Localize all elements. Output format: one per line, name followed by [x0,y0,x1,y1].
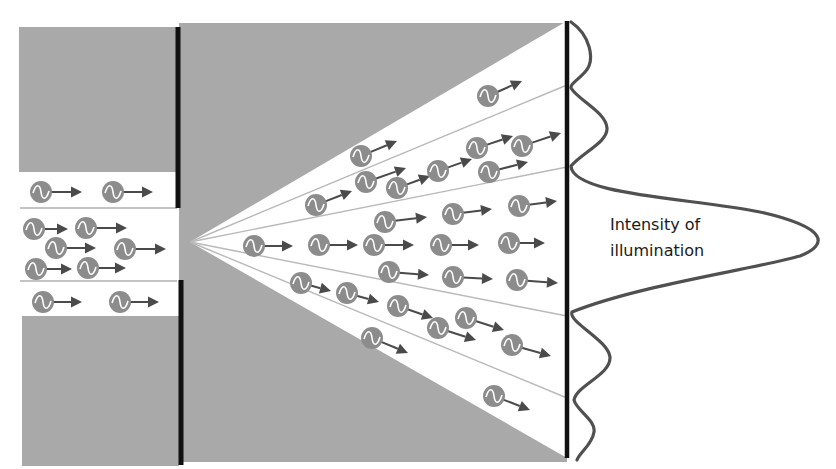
intensity-label-line2: illumination [610,238,704,264]
photon-icon [32,291,82,313]
left-top-shadow [19,27,179,172]
photon-icon [102,181,153,203]
photon-icon [77,257,126,279]
photon-icon [45,237,96,259]
photon-icon [114,238,166,260]
photon-icon [25,258,72,280]
photon-icon [109,291,159,313]
photon-icon [23,218,68,240]
photon-icon [30,181,82,203]
diffraction-diagram [0,0,836,469]
left-bottom-shadow [22,316,179,466]
photon-icon [75,217,127,239]
intensity-label: Intensity of illumination [610,212,704,264]
intensity-label-line1: Intensity of [610,212,704,238]
incoming-photons [23,181,166,313]
